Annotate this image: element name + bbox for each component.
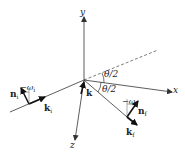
ki-vector bbox=[29, 97, 45, 104]
nf-label: nf bbox=[138, 101, 147, 117]
omega-f-label: −ωf bbox=[122, 91, 137, 107]
ni-label: ni bbox=[10, 84, 18, 100]
omega-i-label: −ωi bbox=[20, 77, 35, 93]
angle-label-lower: θ/2 bbox=[102, 85, 116, 94]
angle-arc-lower bbox=[98, 82, 101, 92]
forward-dashed-line bbox=[84, 50, 158, 80]
z-axis-label: z bbox=[70, 141, 75, 150]
angle-label-upper: θ/2 bbox=[104, 70, 118, 79]
y-axis-label: y bbox=[80, 8, 85, 17]
scattering-diagram: y x z θ/2 θ/2 k ni ki −ωi nf kf −ωf bbox=[0, 0, 185, 158]
ki-label: ki bbox=[44, 98, 52, 114]
x-axis-label: x bbox=[173, 86, 178, 95]
kf-label: kf bbox=[126, 122, 134, 138]
k-label: k bbox=[86, 89, 92, 98]
